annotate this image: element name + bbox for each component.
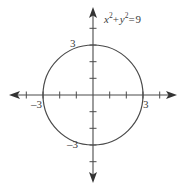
coordinate-plane-svg (0, 0, 184, 189)
equation-equals-operator: = (128, 13, 134, 25)
x-axis-label-negative-three: –3 (31, 99, 42, 110)
equation-plus-operator: + (113, 13, 119, 25)
equation-annotation: x2+ y2= 9 (104, 14, 141, 25)
x-axis-label-positive-three: 3 (143, 99, 149, 110)
y-axis-label-negative-three: –3 (67, 139, 78, 150)
circle-graph-figure: 3 –3 –3 3 x2+ y2= 9 (0, 0, 184, 189)
y-axis-label-positive-three: 3 (70, 38, 76, 49)
equation-right-hand-side: 9 (136, 13, 142, 25)
